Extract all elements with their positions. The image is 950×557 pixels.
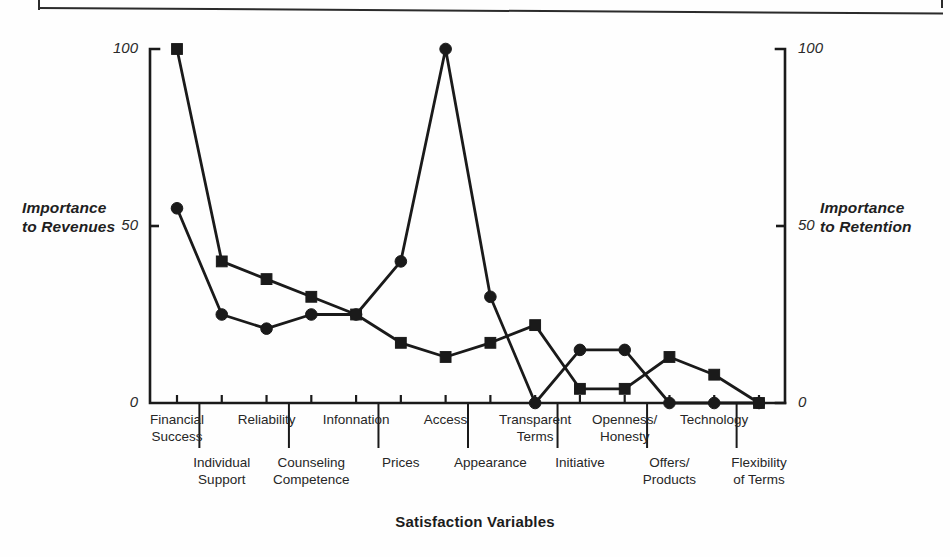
data-point-circle (440, 43, 452, 55)
x-axis-label-line2: Terms (499, 429, 571, 446)
y-axis-left-title: Importance to Revenues (22, 198, 115, 236)
y-axis-right-title-line1: Importance (820, 198, 912, 217)
data-point-circle (753, 397, 765, 409)
x-axis-label-10: Openness/Honesty (592, 412, 657, 445)
data-point-circle (306, 309, 318, 321)
data-point-square (440, 352, 451, 363)
data-point-square (575, 383, 586, 394)
x-axis-label-line1: Appearance (454, 455, 527, 472)
x-axis-label-6: Access (424, 412, 468, 429)
data-point-circle (574, 344, 586, 356)
data-point-square (395, 337, 406, 348)
axes (150, 49, 785, 448)
x-axis-label-line1: Infonnation (323, 412, 390, 429)
x-axis-label-9: Initiative (555, 455, 605, 472)
chart-figure: Importance to Revenues Importance to Ret… (0, 0, 950, 557)
x-axis-label-line1: Reliability (238, 412, 296, 429)
x-axis-label-11: Offers/Products (643, 455, 696, 488)
x-axis-label-13: Flexibilityof Terms (731, 455, 787, 488)
plot-area (0, 0, 950, 557)
data-point-square (172, 44, 183, 55)
data-series (171, 43, 765, 409)
x-axis-label-line2: Products (643, 472, 696, 489)
y-axis-right-tick-50: 50 (798, 216, 815, 233)
y-axis-left-title-line2: to Revenues (22, 217, 115, 236)
x-axis-label-line1: Initiative (555, 455, 605, 472)
data-point-square (664, 352, 675, 363)
x-axis-label-8: TransparentTerms (499, 412, 571, 445)
y-axis-right-tick-100: 100 (798, 39, 823, 56)
x-axis-label-2: Reliability (238, 412, 296, 429)
data-point-square (306, 291, 317, 302)
data-point-circle (216, 309, 228, 321)
x-axis-label-3: CounselingCompetence (273, 455, 350, 488)
x-axis-label-line1: Openness/ (592, 412, 657, 429)
data-point-circle (708, 397, 720, 409)
data-point-square (216, 256, 227, 267)
y-axis-right-title-line2: to Retention (820, 217, 912, 236)
data-point-circle (395, 256, 407, 268)
x-axis-label-line2: Success (150, 429, 204, 446)
x-axis-label-line1: Individual (193, 455, 250, 472)
x-axis-label-1: IndividualSupport (193, 455, 250, 488)
y-axis-left-tick-50: 50 (121, 216, 138, 233)
y-axis-right-title: Importance to Retention (820, 198, 912, 236)
data-point-circle (171, 203, 183, 215)
x-axis-label-line1: Technology (680, 412, 748, 429)
data-point-square (709, 369, 720, 380)
data-point-circle (619, 344, 631, 356)
y-axis-right-tick-0: 0 (798, 393, 806, 410)
x-axis-label-5: Prices (382, 455, 420, 472)
data-point-square (485, 337, 496, 348)
x-axis-label-12: Technology (680, 412, 748, 429)
x-axis-label-line2: Competence (273, 472, 350, 489)
data-point-square (261, 274, 272, 285)
data-point-square (530, 320, 541, 331)
x-axis-label-line1: Flexibility (731, 455, 787, 472)
data-point-square (619, 383, 630, 394)
x-axis-label-4: Infonnation (323, 412, 390, 429)
x-axis-label-7: Appearance (454, 455, 527, 472)
data-point-circle (350, 309, 362, 321)
x-axis-label-line1: Offers/ (643, 455, 696, 472)
data-point-circle (529, 397, 541, 409)
data-point-circle (485, 291, 497, 303)
data-point-circle (261, 323, 273, 335)
y-axis-left-tick-100: 100 (113, 39, 138, 56)
data-point-circle (664, 397, 676, 409)
y-axis-left-tick-0: 0 (130, 393, 138, 410)
x-axis-label-line1: Counseling (273, 455, 350, 472)
x-axis-label-line2: Honesty (592, 429, 657, 446)
series-line-1 (177, 49, 759, 403)
x-axis-title: Satisfaction Variables (0, 513, 950, 530)
x-axis-label-line1: Financial (150, 412, 204, 429)
x-axis-label-line1: Prices (382, 455, 420, 472)
x-axis-label-line2: Support (193, 472, 250, 489)
x-axis-label-line1: Access (424, 412, 468, 429)
x-axis-label-line2: of Terms (731, 472, 787, 489)
x-axis-label-0: FinancialSuccess (150, 412, 204, 445)
y-axis-left-title-line1: Importance (22, 198, 115, 217)
x-axis-label-line1: Transparent (499, 412, 571, 429)
